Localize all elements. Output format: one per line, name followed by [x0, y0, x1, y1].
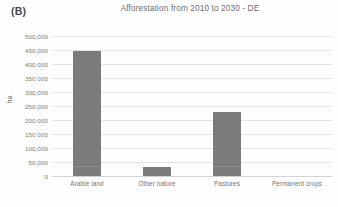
bar-arable-land[interactable] — [73, 51, 101, 176]
x-axis-tick-label: Arable land — [70, 180, 103, 187]
y-axis-tick-label: 100,000 — [6, 145, 48, 152]
axis-baseline — [52, 176, 332, 177]
bar-seam — [213, 166, 241, 167]
bar-pastures[interactable] — [213, 112, 241, 176]
y-axis-tick-label: 150,000 — [6, 131, 48, 138]
y-axis-tick-label: 350,000 — [6, 75, 48, 82]
bar-seam — [73, 166, 101, 167]
y-axis-tick-label: 250,000 — [6, 103, 48, 110]
y-axis-tick-label: 0 — [6, 173, 48, 180]
x-axis-tick-label: Pastures — [214, 180, 240, 187]
y-axis-tick-label: 450,000 — [6, 47, 48, 54]
y-axis-tick-label: 300,000 — [6, 89, 48, 96]
y-axis-tick-label: 400,000 — [6, 61, 48, 68]
bar-other-nature[interactable] — [143, 167, 171, 176]
x-axis-tick-labels: Arable landOther naturePasturesPermanent… — [52, 180, 332, 196]
figure-panel-b: (B) Afforestation from 2010 to 2030 - DE… — [0, 0, 338, 207]
y-axis-tick-labels: 050,000100,000150,000200,000250,000300,0… — [0, 36, 48, 176]
y-axis-tick-label: 200,000 — [6, 117, 48, 124]
chart-title: Afforestation from 2010 to 2030 - DE — [60, 4, 320, 13]
x-axis-tick-label: Other nature — [138, 180, 175, 187]
y-axis-tick-label: 500,000 — [6, 33, 48, 40]
x-axis-tick-label: Permanent crops — [272, 180, 322, 187]
plot-area — [52, 36, 332, 176]
y-axis-tick-label: 50,000 — [6, 159, 48, 166]
gridline — [52, 36, 332, 37]
panel-letter: (B) — [11, 5, 26, 17]
